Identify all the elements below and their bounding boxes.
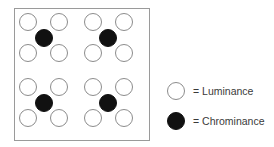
- luminance-sample: [85, 14, 102, 31]
- open-circle-icon: [168, 83, 185, 100]
- legend-item-chrominance: = Chrominance: [168, 113, 265, 130]
- luminance-sample: [51, 45, 68, 62]
- luminance-sample: [85, 110, 102, 127]
- luminance-sample: [51, 79, 68, 96]
- luminance-sample: [85, 45, 102, 62]
- luminance-sample: [116, 14, 133, 31]
- legend-label-luminance: = Luminance: [193, 85, 254, 97]
- luminance-sample: [20, 79, 37, 96]
- luminance-sample: [20, 14, 37, 31]
- luminance-sample: [20, 45, 37, 62]
- luminance-sample: [116, 79, 133, 96]
- chrominance-sample: [36, 30, 53, 47]
- legend-item-luminance: = Luminance: [168, 83, 254, 100]
- diagram-canvas: = Luminance= Chrominance: [0, 0, 274, 147]
- sampling-pattern-svg: = Luminance= Chrominance: [0, 0, 274, 147]
- chrominance-sample: [36, 95, 53, 112]
- luminance-sample: [51, 14, 68, 31]
- chrominance-sample: [100, 95, 117, 112]
- luminance-sample: [85, 79, 102, 96]
- luminance-sample: [116, 110, 133, 127]
- luminance-sample: [51, 110, 68, 127]
- chrominance-sample: [100, 30, 117, 47]
- luminance-sample: [20, 110, 37, 127]
- luminance-sample: [116, 45, 133, 62]
- legend-label-chrominance: = Chrominance: [193, 115, 265, 127]
- filled-circle-icon: [168, 113, 185, 130]
